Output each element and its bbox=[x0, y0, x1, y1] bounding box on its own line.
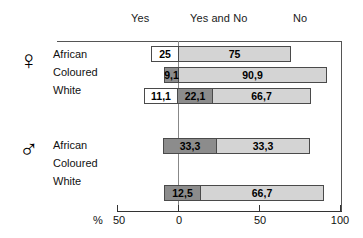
bar-value-no: 66,7 bbox=[252, 187, 272, 199]
bar-segment-yes-and-no: 22,1 bbox=[177, 88, 213, 104]
x-axis-tick-label-0: 0 bbox=[176, 214, 182, 226]
bar-segment-yes-and-no: 12,5 bbox=[164, 185, 201, 201]
male-group-label-african: African bbox=[53, 139, 87, 151]
bar-segment-no: 75 bbox=[178, 46, 291, 62]
chart-container: Yes Yes and No No 50 0 50 100 % ♀ Africa… bbox=[0, 0, 363, 238]
column-header-yes: Yes bbox=[131, 12, 149, 24]
bar-segment-no: 66,7 bbox=[212, 88, 311, 104]
bar-female-coloured: 9,1 90,9 bbox=[164, 67, 327, 83]
bar-value-no: 66,7 bbox=[251, 90, 271, 102]
bar-value-no: 90,9 bbox=[242, 69, 262, 81]
bar-value-yes-and-no: 9,1 bbox=[164, 69, 179, 81]
bar-value-no: 33,3 bbox=[253, 140, 273, 152]
x-axis-tick-0 bbox=[178, 205, 179, 212]
bar-segment-yes: 11,1 bbox=[144, 88, 178, 104]
bar-segment-no: 66,7 bbox=[200, 185, 324, 201]
bar-value-yes-and-no: 12,5 bbox=[172, 187, 192, 199]
bar-male-white: 12,5 66,7 bbox=[164, 185, 324, 201]
bar-female-white: 11,1 22,1 66,7 bbox=[144, 88, 311, 104]
bar-segment-no: 90,9 bbox=[178, 67, 327, 83]
x-axis-tick-minus50 bbox=[117, 205, 118, 212]
female-gender-icon: ♀ bbox=[19, 47, 39, 73]
x-axis-tick-label-100: 100 bbox=[331, 214, 349, 226]
female-group-label-white: White bbox=[53, 84, 81, 96]
bar-value-yes: 11,1 bbox=[151, 90, 171, 102]
bar-female-african: 25 75 bbox=[151, 46, 291, 62]
female-group-label-coloured: Coloured bbox=[53, 66, 98, 78]
column-header-yes-and-no: Yes and No bbox=[190, 12, 247, 24]
x-axis-line bbox=[117, 211, 342, 212]
bar-segment-yes: 25 bbox=[151, 46, 179, 62]
bar-value-no: 75 bbox=[229, 48, 241, 60]
bar-value-yes-and-no: 22,1 bbox=[185, 90, 205, 102]
bar-segment-yes-and-no: 33,3 bbox=[163, 138, 217, 154]
x-axis-tick-label-minus50: 50 bbox=[113, 214, 125, 226]
bar-segment-no: 33,3 bbox=[216, 138, 310, 154]
x-axis-tick-100 bbox=[340, 205, 341, 212]
bar-value-yes-and-no: 33,3 bbox=[180, 140, 200, 152]
x-axis-tick-label-50: 50 bbox=[254, 214, 266, 226]
plot-frame-right-border bbox=[341, 41, 342, 212]
x-axis-tick-50 bbox=[259, 205, 260, 212]
bar-value-yes: 25 bbox=[159, 48, 171, 60]
female-group-label-african: African bbox=[53, 48, 87, 60]
x-axis-unit-label: % bbox=[93, 214, 103, 226]
column-header-no: No bbox=[293, 12, 307, 24]
bar-segment-yes-and-no: 9,1 bbox=[164, 67, 179, 83]
male-gender-icon: ♂ bbox=[19, 136, 39, 162]
male-group-label-coloured: Coloured bbox=[53, 157, 98, 169]
bar-male-african: 33,3 33,3 bbox=[163, 138, 310, 154]
male-group-label-white: White bbox=[53, 175, 81, 187]
plot-frame-top-border bbox=[57, 41, 342, 42]
